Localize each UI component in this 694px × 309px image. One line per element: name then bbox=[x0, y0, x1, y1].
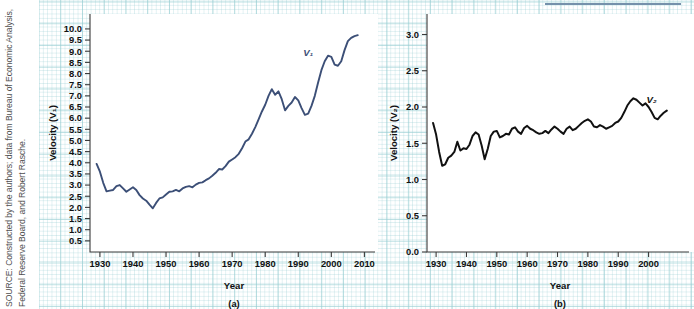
y-axis-title-b: Velocity (V₂) bbox=[388, 105, 399, 161]
source-note-text: SOURCE: Constructed by the authors; data… bbox=[0, 7, 29, 309]
x-tick-label: 1940 bbox=[456, 258, 477, 269]
x-tick-label: 1950 bbox=[486, 258, 507, 269]
plot-background-b bbox=[427, 14, 694, 252]
y-tick-label: 9.0 bbox=[69, 46, 82, 57]
x-tick-label: 1960 bbox=[189, 258, 210, 269]
y-tick-label: 0.0 bbox=[406, 246, 419, 257]
y-tick-label: 9.5 bbox=[69, 34, 82, 45]
x-tick-label: 1930 bbox=[426, 258, 447, 269]
x-axis-ticks-a: 193019401950196019701980199020002010 bbox=[89, 252, 374, 269]
x-tick-label: 1990 bbox=[288, 258, 309, 269]
chart-panel-a: 0.51.01.52.02.53.03.54.04.55.05.56.06.57… bbox=[40, 0, 380, 309]
x-tick-label: 2010 bbox=[354, 258, 375, 269]
y-tick-label: 2.5 bbox=[406, 65, 419, 76]
subcaption-a: (a) bbox=[228, 298, 239, 309]
x-tick-label: 1970 bbox=[222, 258, 243, 269]
y-axis-title-a: Velocity (V₁) bbox=[47, 105, 58, 161]
y-tick-label: 10.0 bbox=[64, 23, 82, 34]
y-tick-label: 1.5 bbox=[69, 213, 82, 224]
y-tick-label: 5.0 bbox=[69, 135, 82, 146]
x-tick-label: 1970 bbox=[547, 258, 568, 269]
y-tick-label: 6.0 bbox=[69, 112, 82, 123]
y-tick-label: 2.0 bbox=[69, 202, 82, 213]
y-axis-ticks-b: 0.00.51.01.52.02.53.0 bbox=[406, 29, 427, 257]
x-axis-title-b: Year bbox=[550, 280, 571, 291]
source-note-gutter: SOURCE: Constructed by the authors; data… bbox=[0, 0, 39, 309]
chart-a-svg: 0.51.01.52.02.53.03.54.04.55.05.56.06.57… bbox=[40, 0, 380, 309]
y-tick-label: 3.5 bbox=[69, 168, 82, 179]
x-tick-label: 1980 bbox=[577, 258, 598, 269]
series-annotation-v2: V₂ bbox=[647, 94, 657, 105]
y-tick-label: 0.5 bbox=[406, 210, 419, 221]
chart-b-svg: 0.00.51.01.52.02.53.0 193019401950196019… bbox=[385, 0, 694, 309]
x-tick-label: 2000 bbox=[321, 258, 342, 269]
x-tick-label: 1940 bbox=[123, 258, 144, 269]
y-tick-label: 8.0 bbox=[69, 68, 82, 79]
x-axis-title-a: Year bbox=[224, 280, 245, 291]
y-tick-label: 4.0 bbox=[69, 157, 82, 168]
x-tick-label: 1990 bbox=[608, 258, 629, 269]
figure-root: SOURCE: Constructed by the authors; data… bbox=[0, 0, 694, 309]
source-note: SOURCE: Constructed by the authors; data… bbox=[0, 0, 38, 309]
x-tick-label: 1960 bbox=[517, 258, 538, 269]
x-tick-label: 1950 bbox=[156, 258, 177, 269]
subcaption-b: (b) bbox=[554, 298, 566, 309]
y-tick-label: 2.5 bbox=[69, 191, 82, 202]
y-tick-label: 1.5 bbox=[406, 138, 419, 149]
y-tick-label: 3.0 bbox=[406, 29, 419, 40]
plot-background-a bbox=[90, 14, 378, 252]
y-tick-label: 3.0 bbox=[69, 179, 82, 190]
series-annotation-v1: V₁ bbox=[303, 47, 313, 58]
y-tick-label: 6.5 bbox=[69, 101, 82, 112]
y-tick-label: 0.5 bbox=[69, 235, 82, 246]
x-tick-label: 1930 bbox=[89, 258, 110, 269]
y-tick-label: 1.0 bbox=[69, 224, 82, 235]
y-tick-label: 4.5 bbox=[69, 146, 82, 157]
x-axis-ticks-b: 19301940195019601970198019902000 bbox=[426, 252, 659, 269]
y-tick-label: 1.0 bbox=[406, 174, 419, 185]
x-tick-label: 1980 bbox=[255, 258, 276, 269]
y-tick-label: 8.5 bbox=[69, 57, 82, 68]
x-tick-label: 2000 bbox=[638, 258, 659, 269]
y-tick-label: 7.0 bbox=[69, 90, 82, 101]
y-tick-label: 2.0 bbox=[406, 101, 419, 112]
chart-panel-b: 0.00.51.01.52.02.53.0 193019401950196019… bbox=[385, 0, 694, 309]
y-axis-ticks-a: 0.51.01.52.02.53.03.54.04.55.05.56.06.57… bbox=[64, 23, 90, 246]
y-tick-label: 5.5 bbox=[69, 124, 82, 135]
y-tick-label: 7.5 bbox=[69, 79, 82, 90]
